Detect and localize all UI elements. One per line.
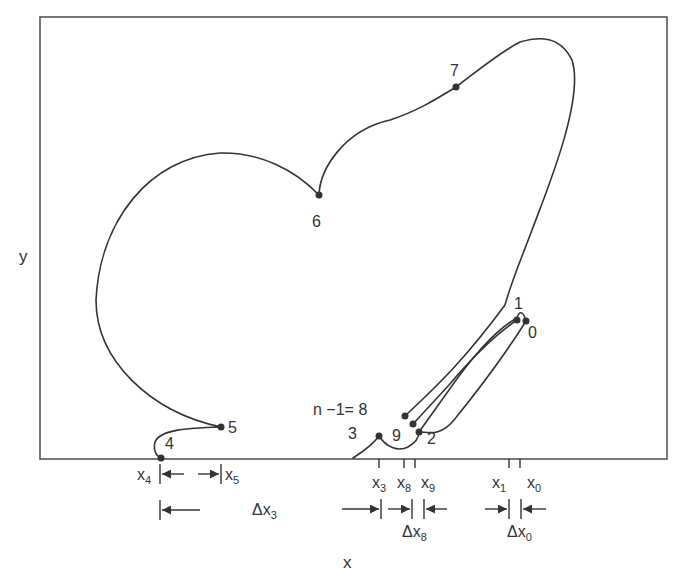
label-point-2: 2 <box>427 430 436 447</box>
inner-segment <box>413 320 517 424</box>
label-point-3: 3 <box>348 425 357 442</box>
label-point-7: 7 <box>450 62 459 79</box>
point-9 <box>410 421 417 428</box>
label-delta-x8: Δx8 <box>402 523 427 543</box>
tick-label-x1: x1 <box>492 474 506 494</box>
tick-label-x5: x5 <box>225 466 239 486</box>
tick-label-x0: x0 <box>527 474 541 494</box>
point-5 <box>218 424 225 431</box>
dimension-x4-x5 <box>160 464 221 484</box>
label-point-4: 4 <box>165 435 174 452</box>
curve-discretization-diagram: y x 0 1 2 3 4 5 6 7 n −1= 8 9 x4 x5 x3 x… <box>0 0 680 584</box>
label-point-5: 5 <box>228 419 237 436</box>
tick-label-x3: x3 <box>372 474 386 494</box>
label-point-9: 9 <box>392 427 401 444</box>
label-point-6: 6 <box>312 213 321 230</box>
x-axis-label: x <box>343 553 352 572</box>
label-point-8: n −1= 8 <box>313 401 367 418</box>
tick-label-x8: x8 <box>397 474 411 494</box>
upper-curve <box>96 39 575 458</box>
point-7 <box>453 84 460 91</box>
label-delta-x0: Δx0 <box>507 523 532 543</box>
point-4 <box>158 455 165 462</box>
label-delta-x3: Δx3 <box>252 501 277 521</box>
dimension-delta-x8 <box>388 499 447 519</box>
point-3 <box>376 433 383 440</box>
point-8 <box>402 413 409 420</box>
label-point-1: 1 <box>514 295 523 312</box>
plot-frame <box>40 17 667 459</box>
point-1 <box>514 317 521 324</box>
point-6 <box>316 192 323 199</box>
dimension-delta-x0 <box>485 499 546 519</box>
label-point-0: 0 <box>528 324 537 341</box>
point-2 <box>416 429 423 436</box>
tick-label-x9: x9 <box>421 474 435 494</box>
tick-label-x4: x4 <box>137 466 151 486</box>
y-axis-label: y <box>19 247 28 266</box>
